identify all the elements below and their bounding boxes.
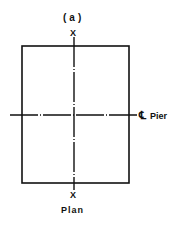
pier-label-text: Pier [150,111,167,121]
pier-centerline-label: ℄Pier [139,110,167,121]
view-label: Plan [61,206,84,215]
section-marker-bottom: X [70,191,76,200]
centerline-symbol-icon: ℄ [139,109,146,121]
